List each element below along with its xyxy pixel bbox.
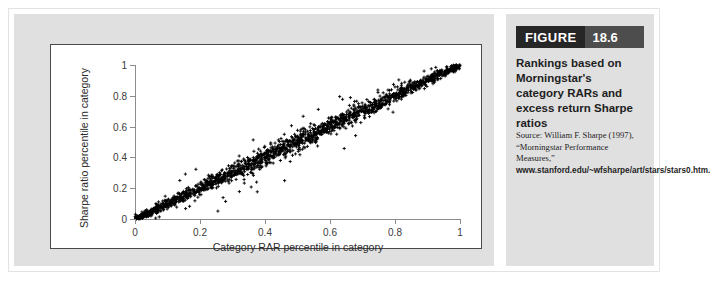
source-url: www.stanford.edu/~wfsharpe/art/stars/sta… [516,166,710,175]
y-tick [130,127,135,128]
y-axis-label: Sharpe ratio percentile in category [78,68,90,228]
y-tick-label: 1 [109,60,127,71]
y-tick [130,96,135,97]
x-tick [330,219,331,224]
figure-tag: FIGURE 18.6 [516,26,644,48]
chart-band: Category RAR percentile in category Shar… [14,14,494,266]
chart-panel: Category RAR percentile in category Shar… [50,44,482,249]
scatter-series [135,65,460,219]
x-tick-label: 1 [457,227,463,238]
plot-wrapper: Category RAR percentile in category Shar… [51,45,481,248]
x-tick [200,219,201,224]
y-tick-label: 0 [109,214,127,225]
x-axis-line [135,219,461,220]
x-tick-label: 0.2 [193,227,207,238]
x-tick-label: 0 [132,227,138,238]
y-tick [130,65,135,66]
figure-tag-number: 18.6 [585,26,644,48]
y-tick-label: 0.6 [109,121,127,132]
y-tick [130,157,135,158]
y-tick-label: 0.2 [109,183,127,194]
caption-column: FIGURE 18.6 Rankings based on Morningsta… [506,14,654,266]
x-tick-label: 0.8 [388,227,402,238]
figure-caption-title: Rankings based on Morningstar's category… [516,56,642,131]
figure-tag-word: FIGURE [516,26,585,48]
x-tick-label: 0.6 [323,227,337,238]
y-tick [130,188,135,189]
y-tick [130,219,135,220]
x-axis-label: Category RAR percentile in category [135,241,461,253]
x-tick-label: 0.4 [258,227,272,238]
plot-area [135,65,460,219]
x-tick [265,219,266,224]
scatter-points [134,63,462,220]
y-tick-label: 0.8 [109,90,127,101]
source-text: Source: William F. Sharpe (1997), “Morni… [516,130,634,163]
y-tick-label: 0.4 [109,152,127,163]
x-tick [395,219,396,224]
x-tick [460,219,461,224]
figure-source-note: Source: William F. Sharpe (1997), “Morni… [516,130,646,176]
x-tick [135,219,136,224]
